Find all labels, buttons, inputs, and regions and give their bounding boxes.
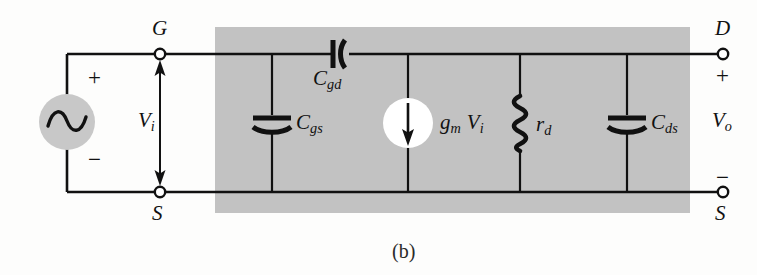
input-voltage-base: V bbox=[138, 108, 151, 132]
terminal-label-source-right: S bbox=[715, 203, 726, 224]
cds-label: Cds bbox=[651, 112, 678, 135]
output-voltage-base: V bbox=[712, 108, 725, 132]
rd-label: rd bbox=[536, 114, 551, 137]
input-voltage-sub: i bbox=[151, 118, 155, 134]
cgd-label-base: C bbox=[313, 66, 327, 90]
rd-label-sub: d bbox=[544, 122, 551, 138]
rd-label-base: r bbox=[536, 112, 544, 136]
gmvi-vi-base: V bbox=[467, 110, 480, 134]
cgd-label: Cgd bbox=[313, 68, 341, 91]
terminal-label-drain: D bbox=[715, 18, 730, 39]
node-gate bbox=[155, 49, 165, 59]
gmvi-gm-base: g bbox=[440, 110, 451, 134]
terminal-label-gate: G bbox=[152, 18, 167, 39]
circuit-figure: G S D S + − Vi Cgd Cgs gmVi rd Cds + − V… bbox=[0, 0, 757, 275]
gmvi-gm-sub: m bbox=[451, 120, 461, 136]
output-plus-sign: + bbox=[716, 64, 729, 87]
output-voltage-label: Vo bbox=[712, 110, 732, 133]
node-drain bbox=[718, 49, 728, 59]
output-voltage-sub: o bbox=[725, 118, 732, 134]
output-minus-sign: − bbox=[716, 166, 729, 189]
cds-label-base: C bbox=[651, 110, 665, 134]
node-source-left bbox=[155, 187, 165, 197]
source-minus-sign: − bbox=[88, 148, 101, 171]
source-plus-sign: + bbox=[88, 66, 101, 89]
cgs-label: Cgs bbox=[296, 112, 323, 135]
cgs-label-sub: gs bbox=[310, 120, 323, 136]
cds-label-sub: ds bbox=[665, 120, 678, 136]
input-voltage-label: Vi bbox=[138, 110, 155, 133]
gmvi-label: gmVi bbox=[440, 112, 484, 135]
cgd-label-sub: gd bbox=[327, 76, 341, 92]
cgs-label-base: C bbox=[296, 110, 310, 134]
figure-caption: (b) bbox=[392, 240, 415, 263]
gmvi-vi-sub: i bbox=[480, 120, 484, 136]
circuit-schematic bbox=[0, 0, 757, 275]
terminal-label-source-left: S bbox=[152, 203, 163, 224]
